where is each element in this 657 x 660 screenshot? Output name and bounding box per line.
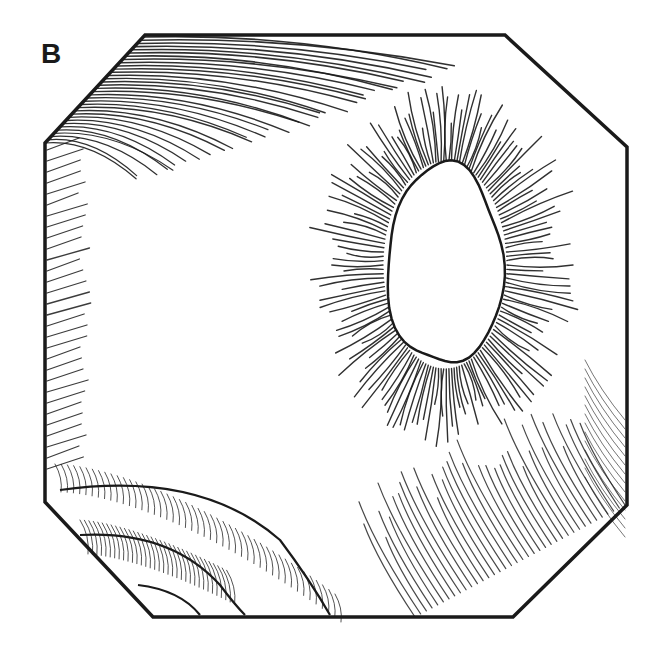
bottom-left-contours xyxy=(60,486,330,615)
illustration xyxy=(0,0,657,660)
hatching-layer xyxy=(45,37,625,622)
hole-outline xyxy=(388,160,505,362)
